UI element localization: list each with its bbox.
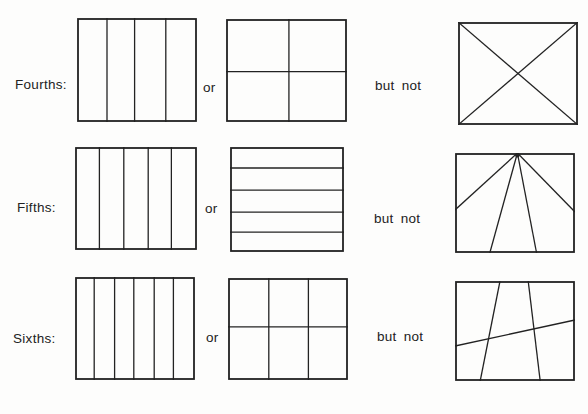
figure-sixths-six-vertical-strips xyxy=(75,277,195,380)
figure-fourths-diagonal-x xyxy=(458,22,578,125)
or-label-fifths: or xyxy=(205,201,218,216)
or-label-sixths: or xyxy=(206,330,219,345)
but-not-label-fourths: but not xyxy=(375,78,421,93)
row-label-fifths: Fifths: xyxy=(17,200,56,215)
figure-fifths-five-vertical-strips xyxy=(75,147,197,250)
figure-fifths-fan-from-top-center xyxy=(455,153,575,253)
figure-sixths-irregular-slanted-lines xyxy=(455,281,575,381)
fraction-partitioning-diagram: Fourths:orbut notFifths:orbut notSixths:… xyxy=(0,0,588,414)
but-not-label-fifths: but not xyxy=(374,211,420,226)
figure-fourths-four-vertical-strips xyxy=(77,18,197,122)
figure-fifths-five-horizontal-strips xyxy=(230,147,344,252)
but-not-label-sixths: but not xyxy=(377,329,423,344)
figure-fourths-two-by-two-grid xyxy=(226,19,347,122)
row-label-fourths: Fourths: xyxy=(15,77,67,92)
figure-sixths-three-by-two-grid xyxy=(228,278,348,380)
or-label-fourths: or xyxy=(203,80,216,95)
row-label-sixths: Sixths: xyxy=(13,331,56,346)
